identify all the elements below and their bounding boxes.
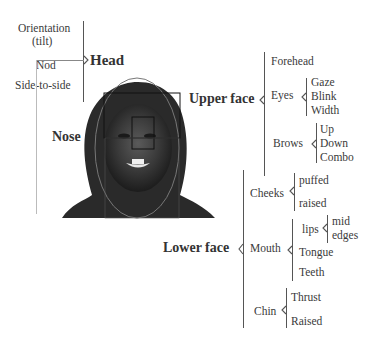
upper-face-brace-icon bbox=[260, 96, 264, 104]
chin-brace-icon bbox=[282, 306, 286, 314]
brows-brace-icon bbox=[312, 140, 316, 148]
mouth-brace-icon bbox=[288, 246, 292, 254]
lower-face-brace-icon bbox=[239, 244, 243, 254]
eyes-brace-icon bbox=[302, 93, 306, 101]
head-brace-icon bbox=[84, 56, 88, 64]
cheeks-brace-icon bbox=[290, 187, 294, 195]
lips-brace-icon bbox=[323, 224, 327, 232]
brace-glyphs bbox=[0, 0, 375, 348]
